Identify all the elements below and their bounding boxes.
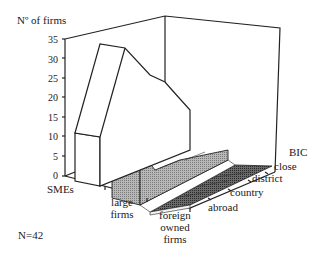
depth-label-bic: BIC [289,146,307,158]
y-axis-label: Nº of firms [17,14,66,26]
depth-label-district: district [252,172,283,184]
series-label-foreign-owned-firms: foreign owned firms [153,209,197,245]
sample-size-note: N=42 [18,229,43,241]
depth-label-country: country [230,186,264,198]
y-tick-30: 30 [38,55,58,65]
y-tick-10: 10 [38,132,58,142]
y-tick-35: 35 [38,35,58,45]
y-axis [62,39,65,176]
y-tick-0: 0 [38,171,58,181]
depth-label-close: close [274,160,297,172]
y-tick-5: 5 [38,152,58,162]
y-tick-15: 15 [38,113,58,123]
y-tick-20: 20 [38,93,58,103]
y-tick-25: 25 [38,74,58,84]
series-label-large-firms: large firms [104,196,140,220]
series-label-smes: SMEs [47,183,74,195]
depth-label-abroad: abroad [208,201,238,213]
